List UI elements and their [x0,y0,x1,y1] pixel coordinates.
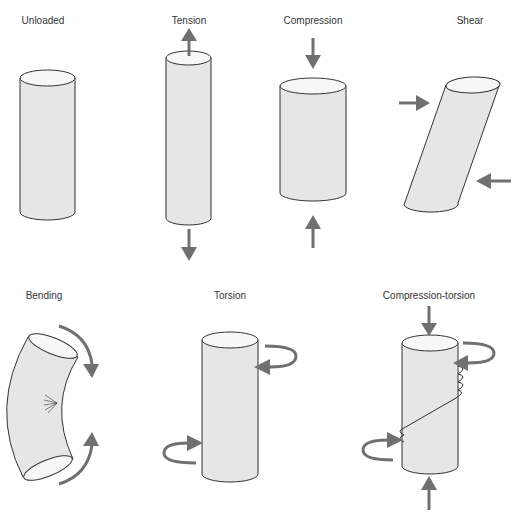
label-shear: Shear [457,15,484,26]
label-compression: Compression [284,15,343,26]
arrow-up-icon [421,476,437,510]
arrow-right-icon [399,95,430,111]
cylinder-torsion [202,332,258,482]
arrow-down-icon [421,306,437,336]
cylinder-compression-torsion [400,335,463,474]
rotation-arrow-icon [254,346,296,375]
panel-bending: Bending [7,290,99,485]
arrow-down-icon [305,38,321,69]
label-tension: Tension [172,15,206,26]
panel-compression: Compression [280,15,346,248]
cylinder-compression [280,78,346,201]
cylinder-tension [166,51,211,225]
panel-compression-torsion: Compression-torsion [363,290,494,510]
arrow-up-icon [305,215,321,248]
arrow-down-icon [181,229,197,261]
label-compression-torsion: Compression-torsion [383,290,475,301]
load-types-diagram: Unloaded Tension Compression [0,0,518,519]
panel-unloaded: Unloaded [20,15,75,220]
label-unloaded: Unloaded [22,15,65,26]
rotation-arrow-icon [453,343,494,371]
rotation-arrow-icon [164,435,203,463]
cylinder-unloaded [20,70,75,220]
cylinder-bending [7,329,80,485]
rotation-arrow-icon [363,432,403,460]
panel-torsion: Torsion [164,290,296,482]
panel-shear: Shear [399,15,511,212]
label-torsion: Torsion [214,290,246,301]
arrow-left-icon [476,173,511,189]
label-bending: Bending [26,290,63,301]
panel-tension: Tension [166,15,211,261]
